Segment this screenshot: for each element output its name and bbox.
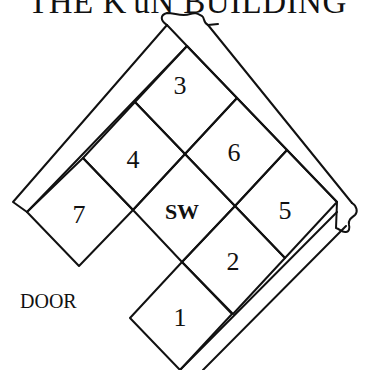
cell-label-4: 4 [127,145,140,174]
left-wall [13,25,187,212]
door-label: DOOR [20,290,77,312]
right-wall [167,25,352,203]
cell-label-2: 2 [227,247,240,276]
right-wall-cap [336,202,357,232]
cell-label-6: 6 [228,138,241,167]
building-floorplan-diagram: THE K'uN BUILDING 3 4 6 7 SW 5 2 1 DOOR [0,0,377,370]
diagram-title: THE K'uN BUILDING [28,0,347,20]
cell-label-3: 3 [174,71,187,100]
cell-label-1: 1 [174,303,187,332]
cell-label-7: 7 [73,200,86,229]
cell-3[interactable] [135,46,237,154]
cell-label-5: 5 [279,196,292,225]
cell-label-sw: SW [165,199,199,224]
